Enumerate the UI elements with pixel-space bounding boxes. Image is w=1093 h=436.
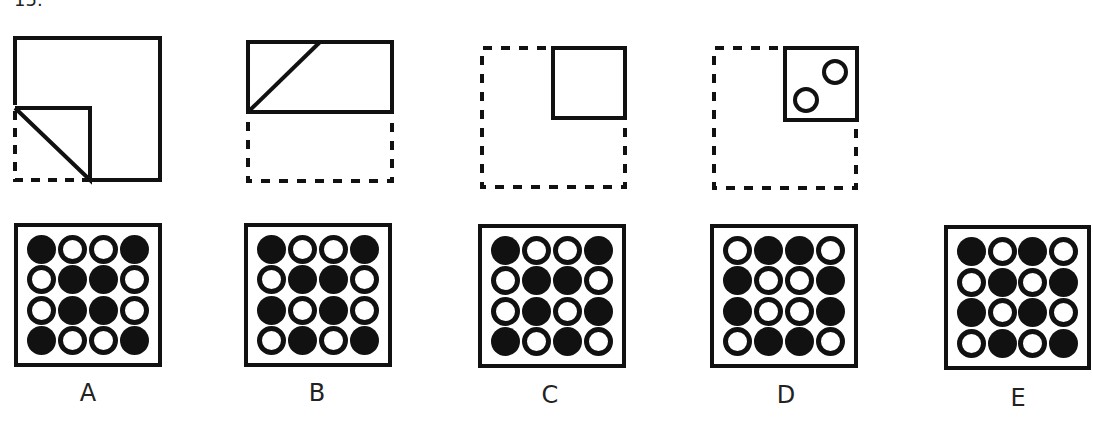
open-circle-icon <box>723 236 752 265</box>
open-circle-icon <box>350 265 379 294</box>
filled-circle-icon <box>27 235 56 264</box>
filled-circle-icon <box>319 265 348 294</box>
option-label: C <box>530 381 570 409</box>
open-circle-icon <box>27 296 56 325</box>
open-circle-icon <box>988 237 1017 266</box>
filled-circle-icon <box>350 326 379 355</box>
open-circle-icon <box>553 297 582 326</box>
option-label: D <box>766 381 806 409</box>
filled-circle-icon <box>816 297 845 326</box>
filled-circle-icon <box>288 326 317 355</box>
filled-circle-icon <box>785 327 814 356</box>
filled-circle-icon <box>957 298 986 327</box>
filled-circle-icon <box>58 296 87 325</box>
filled-circle-icon <box>754 327 783 356</box>
open-circle-icon <box>522 236 551 265</box>
filled-circle-icon <box>1049 268 1078 297</box>
open-circle-icon <box>785 297 814 326</box>
open-circle-icon <box>754 297 783 326</box>
open-circle-icon <box>350 296 379 325</box>
open-circle-icon <box>584 327 613 356</box>
open-circle-icon <box>957 329 986 358</box>
filled-circle-icon <box>58 265 87 294</box>
hole-grid <box>956 236 1079 359</box>
option-label: A <box>68 379 108 407</box>
open-circle-icon <box>257 326 286 355</box>
filled-circle-icon <box>89 265 118 294</box>
open-circle-icon <box>58 235 87 264</box>
open-circle-icon <box>723 327 752 356</box>
filled-circle-icon <box>120 326 149 355</box>
filled-circle-icon <box>257 296 286 325</box>
open-circle-icon <box>754 266 783 295</box>
open-circle-icon <box>1049 298 1078 327</box>
filled-circle-icon <box>553 327 582 356</box>
fold-step-1 <box>10 33 170 188</box>
option-e-grid-box <box>944 225 1091 370</box>
filled-circle-icon <box>785 236 814 265</box>
open-circle-icon <box>553 236 582 265</box>
filled-circle-icon <box>288 265 317 294</box>
filled-circle-icon <box>120 235 149 264</box>
filled-circle-icon <box>816 266 845 295</box>
filled-circle-icon <box>584 236 613 265</box>
filled-circle-icon <box>957 237 986 266</box>
open-circle-icon <box>319 235 348 264</box>
open-circle-icon <box>89 326 118 355</box>
option-label: E <box>998 384 1038 412</box>
filled-circle-icon <box>988 268 1017 297</box>
hole-grid <box>26 234 150 356</box>
filled-circle-icon <box>319 296 348 325</box>
option-d-grid-box <box>710 224 858 368</box>
question-number: 15. <box>14 0 43 10</box>
filled-circle-icon <box>988 329 1017 358</box>
filled-circle-icon <box>723 266 752 295</box>
fold-step-4 <box>708 42 868 194</box>
open-circle-icon <box>120 265 149 294</box>
open-circle-icon <box>89 235 118 264</box>
open-circle-icon <box>27 265 56 294</box>
hole-grid <box>722 235 846 357</box>
hole-grid <box>256 234 380 356</box>
open-circle-icon <box>319 326 348 355</box>
open-circle-icon <box>257 265 286 294</box>
filled-circle-icon <box>1049 329 1078 358</box>
filled-circle-icon <box>584 297 613 326</box>
filled-circle-icon <box>257 235 286 264</box>
hole-grid <box>490 235 614 357</box>
filled-circle-icon <box>1018 298 1047 327</box>
option-c-grid-box <box>478 224 626 368</box>
filled-circle-icon <box>522 297 551 326</box>
filled-circle-icon <box>89 296 118 325</box>
open-circle-icon <box>491 266 520 295</box>
open-circle-icon <box>58 326 87 355</box>
option-a-grid-box <box>14 223 162 367</box>
open-circle-icon <box>522 327 551 356</box>
filled-circle-icon <box>491 327 520 356</box>
open-circle-icon <box>1049 237 1078 266</box>
filled-circle-icon <box>723 297 752 326</box>
open-circle-icon <box>288 235 317 264</box>
open-circle-icon <box>584 266 613 295</box>
open-circle-icon <box>1018 268 1047 297</box>
filled-circle-icon <box>27 326 56 355</box>
fold-step-3 <box>476 42 636 192</box>
filled-circle-icon <box>1018 237 1047 266</box>
open-circle-icon <box>491 297 520 326</box>
open-circle-icon <box>120 296 149 325</box>
open-circle-icon <box>288 296 317 325</box>
filled-circle-icon <box>350 235 379 264</box>
option-label: B <box>297 379 337 407</box>
filled-circle-icon <box>491 236 520 265</box>
filled-circle-icon <box>754 236 783 265</box>
open-circle-icon <box>988 298 1017 327</box>
fold-step-2 <box>242 36 402 188</box>
open-circle-icon <box>816 236 845 265</box>
filled-circle-icon <box>553 266 582 295</box>
open-circle-icon <box>957 268 986 297</box>
open-circle-icon <box>816 327 845 356</box>
open-circle-icon <box>1018 329 1047 358</box>
option-b-grid-box <box>244 223 392 367</box>
filled-circle-icon <box>522 266 551 295</box>
open-circle-icon <box>785 266 814 295</box>
